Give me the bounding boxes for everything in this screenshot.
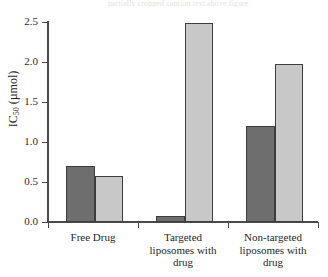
x-category-line: Non-targeted: [224, 231, 322, 244]
x-tick-mark: [228, 222, 230, 228]
x-category-label-free-drug: Free Drug: [48, 231, 138, 244]
y-tick-label-0-0: 0.0: [0, 216, 38, 227]
bar-free-drug-light: [95, 176, 123, 222]
bar-targeted-liposomes-light: [185, 23, 213, 222]
cropped-caption-remnant: partially cropped caption text above fig…: [108, 0, 326, 7]
bar-targeted-liposomes-dark: [156, 216, 185, 222]
y-axis-title-subscript: 50: [12, 107, 21, 115]
x-category-label-non-targeted-liposomes: Non-targeted liposomes with drug: [224, 231, 322, 269]
x-category-label-targeted-liposomes: Targeted liposomes with drug: [134, 231, 232, 269]
x-category-line: liposomes with: [134, 244, 232, 257]
x-category-line: liposomes with: [224, 244, 322, 257]
y-axis-title-unit: (µmol): [6, 71, 20, 108]
x-category-line: Free Drug: [48, 231, 138, 244]
x-tick-mark: [318, 222, 320, 228]
plot-area: [48, 22, 318, 222]
x-category-line: Targeted: [134, 231, 232, 244]
bar-free-drug-dark: [66, 166, 95, 222]
bar-non-targeted-liposomes-dark: [246, 126, 275, 222]
x-tick-mark: [138, 222, 140, 228]
bar-chart-figure: partially cropped caption text above fig…: [0, 0, 328, 277]
bar-non-targeted-liposomes-light: [275, 64, 303, 222]
x-category-line: drug: [224, 256, 322, 269]
y-axis-title: IC50 (µmol): [7, 19, 21, 179]
x-category-line: drug: [134, 256, 232, 269]
x-tick-mark: [48, 222, 50, 228]
y-axis-title-base: IC: [6, 115, 20, 127]
